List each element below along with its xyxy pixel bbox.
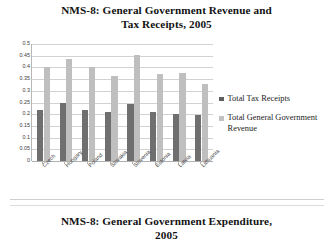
legend-label: Total Tax Receipts xyxy=(228,94,290,104)
bar-total-tax-receipts xyxy=(173,114,179,161)
y-axis-tick-label: 0.2 xyxy=(4,111,30,116)
y-axis-tick-label: 0.45 xyxy=(4,53,30,58)
x-axis-category-labels: CzechHungaryPolandSlovakiaSloveniaEstoni… xyxy=(31,164,212,198)
chart-title-line-1: NMS-8: General Government Revenue and xyxy=(61,4,272,16)
bar-group xyxy=(77,44,100,161)
bar-total-general-government-revenue xyxy=(202,84,208,161)
chart-title-expenditure-line-2: 2005 xyxy=(0,229,333,243)
legend-label: Total General Government Revenue xyxy=(228,113,324,134)
chart-title-expenditure: NMS-8: General Government Expenditure, 2… xyxy=(0,209,333,242)
chart-title: NMS-8: General Government Revenue and Ta… xyxy=(0,0,333,31)
y-axis-tick-label: 0.15 xyxy=(4,123,30,128)
bar-group xyxy=(168,44,191,161)
y-axis-tick-label: 0.4 xyxy=(4,65,30,70)
plot-box xyxy=(31,44,213,161)
y-axis-tick-label: 0.25 xyxy=(4,100,30,105)
bar-group xyxy=(123,44,146,161)
legend-swatch-icon xyxy=(219,97,224,102)
chart-title-expenditure-line-1: NMS-8: General Government Expenditure, xyxy=(61,215,272,227)
bars-layer xyxy=(32,44,213,161)
bar-group xyxy=(55,44,78,161)
bar-total-general-government-revenue xyxy=(157,74,163,161)
bar-total-general-government-revenue xyxy=(89,67,95,161)
bar-total-general-government-revenue xyxy=(44,67,50,161)
bar-total-tax-receipts xyxy=(60,103,66,162)
y-axis-tick-label: 0.05 xyxy=(4,147,30,152)
figure-revenue-tax-receipts: NMS-8: General Government Revenue and Ta… xyxy=(0,0,333,197)
chart-title-line-2: Tax Receipts, 2005 xyxy=(0,18,333,32)
y-axis-tick-labels: 0.50.450.40.350.30.250.20.150.10.050 xyxy=(4,44,30,161)
figure-divider-line-secondary xyxy=(10,205,324,206)
y-axis-tick-label: 0.35 xyxy=(4,76,30,81)
bar-total-tax-receipts xyxy=(195,115,201,161)
y-axis-tick-label: 0.1 xyxy=(4,135,30,140)
legend-entry: Total Tax Receipts xyxy=(219,94,331,104)
legend-swatch-icon xyxy=(219,116,224,121)
y-axis-tick-label: 0.3 xyxy=(4,88,30,93)
bar-group xyxy=(100,44,123,161)
figure-expenditure: NMS-8: General Government Expenditure, 2… xyxy=(0,209,333,245)
figure-divider-line xyxy=(10,199,324,200)
legend-entry: Total General Government Revenue xyxy=(219,113,331,134)
bar-total-general-government-revenue xyxy=(111,76,117,161)
bar-total-tax-receipts xyxy=(150,112,156,161)
y-axis-tick-label: 0.5 xyxy=(4,41,30,46)
chart-plot-region: 0.50.450.40.350.30.250.20.150.10.050 Cze… xyxy=(0,36,333,196)
bar-total-general-government-revenue xyxy=(66,59,72,161)
bar-group xyxy=(190,44,213,161)
y-axis-tick-label: 0 xyxy=(4,158,30,163)
bar-total-general-government-revenue xyxy=(134,55,140,161)
bar-group xyxy=(145,44,168,161)
chart-legend: Total Tax ReceiptsTotal General Governme… xyxy=(219,94,331,143)
bar-group xyxy=(32,44,55,161)
bar-total-tax-receipts xyxy=(37,110,43,161)
bar-total-tax-receipts xyxy=(105,112,111,161)
bar-total-general-government-revenue xyxy=(179,73,185,161)
